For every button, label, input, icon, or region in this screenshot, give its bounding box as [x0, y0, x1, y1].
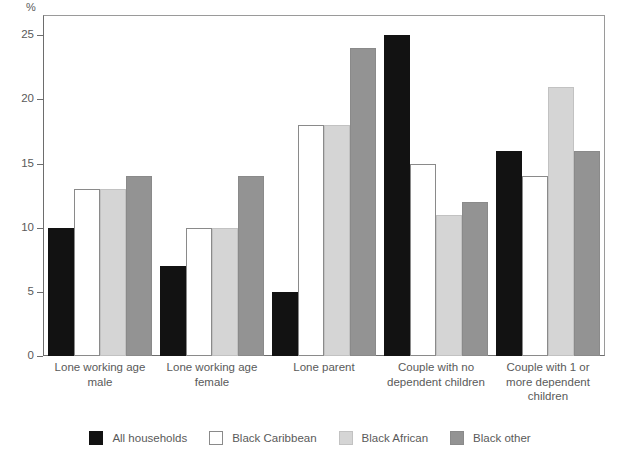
bar-group	[496, 16, 600, 356]
y-axis-tick: 15	[0, 164, 43, 165]
legend-item[interactable]: All households	[89, 431, 187, 445]
legend-swatch-icon	[450, 431, 464, 445]
y-axis-tick-label: 5	[28, 284, 34, 299]
bar-group	[48, 16, 152, 356]
bar-group	[272, 16, 376, 356]
y-axis-tick: 25	[0, 35, 43, 36]
x-axis-label-line: children	[486, 389, 610, 404]
bars-layer	[44, 16, 604, 356]
x-axis-label-line: Couple with 1 or	[486, 360, 610, 375]
y-axis-unit-label: %	[26, 1, 36, 13]
x-axis-label: Couple with 1 ormore dependentchildren	[486, 360, 610, 404]
legend-item[interactable]: Black other	[450, 431, 531, 445]
x-axis-label-line: Couple with no	[374, 360, 498, 375]
x-axis-label: Lone parent	[262, 360, 386, 375]
y-axis-tick: 0	[0, 356, 43, 357]
bar	[48, 228, 74, 356]
y-axis-tick-mark	[37, 228, 43, 229]
legend-item[interactable]: Black African	[339, 431, 428, 445]
legend-swatch-icon	[209, 431, 223, 445]
bar	[212, 228, 238, 356]
y-axis-tick-mark	[37, 164, 43, 165]
y-axis-tick: 5	[0, 292, 43, 293]
bar	[522, 176, 548, 356]
legend-swatch-icon	[339, 431, 353, 445]
x-axis-label: Lone working agemale	[38, 360, 162, 389]
bar	[496, 151, 522, 356]
bar-group	[160, 16, 264, 356]
bar	[324, 125, 350, 356]
chart-legend: All householdsBlack CaribbeanBlack Afric…	[0, 427, 620, 449]
grouped-bar-chart: % 0510152025 Lone working agemaleLone wo…	[0, 0, 620, 452]
bar	[548, 87, 574, 356]
x-axis-label-line: Lone parent	[262, 360, 386, 375]
bar	[436, 215, 462, 356]
bar	[384, 35, 410, 356]
legend-swatch-icon	[89, 431, 103, 445]
x-axis-label-line: male	[38, 375, 162, 390]
y-axis-tick-label: 25	[21, 27, 34, 42]
x-axis-label-line: female	[150, 375, 274, 390]
legend-label: All households	[112, 432, 187, 444]
bar	[298, 125, 324, 356]
y-axis-tick: 20	[0, 99, 43, 100]
x-axis-label-line: Lone working age	[150, 360, 274, 375]
bar	[350, 48, 376, 356]
y-axis-tick-label: 0	[28, 348, 34, 363]
bar-group	[384, 16, 488, 356]
y-axis-tick-label: 15	[21, 156, 34, 171]
legend-item[interactable]: Black Caribbean	[209, 431, 316, 445]
y-axis-tick-label: 10	[21, 220, 34, 235]
x-axis-label-line: dependent children	[374, 375, 498, 390]
x-axis-label: Couple with nodependent children	[374, 360, 498, 389]
y-axis-tick-mark	[37, 292, 43, 293]
x-axis-labels: Lone working agemaleLone working agefema…	[44, 360, 604, 416]
bar	[238, 176, 264, 356]
y-axis-tick-mark	[37, 356, 43, 357]
y-axis-tick-label: 20	[21, 91, 34, 106]
y-axis-tick: 10	[0, 228, 43, 229]
x-axis-label: Lone working agefemale	[150, 360, 274, 389]
y-axis-tick-mark	[37, 99, 43, 100]
y-axis-tick-mark	[37, 35, 43, 36]
x-axis-label-line: more dependent	[486, 375, 610, 390]
legend-label: Black African	[362, 432, 428, 444]
bar	[186, 228, 212, 356]
legend-label: Black other	[473, 432, 531, 444]
bar	[74, 189, 100, 356]
bar	[100, 189, 126, 356]
bar	[410, 164, 436, 356]
bar	[126, 176, 152, 356]
legend-label: Black Caribbean	[232, 432, 316, 444]
x-axis-label-line: Lone working age	[38, 360, 162, 375]
bar	[272, 292, 298, 356]
bar	[574, 151, 600, 356]
bar	[462, 202, 488, 356]
bar	[160, 266, 186, 356]
